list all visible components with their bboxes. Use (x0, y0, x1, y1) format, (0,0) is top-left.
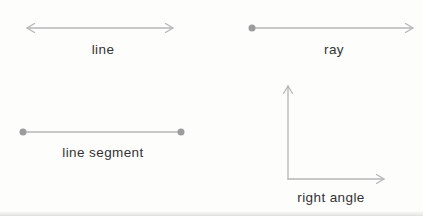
line-segment-label: line segment (62, 145, 143, 160)
figure-line-segment: line segment (20, 129, 185, 161)
geometry-diagram: linerayline segmentright angle (0, 0, 423, 216)
ray-label: ray (324, 42, 344, 57)
right-angle-label: right angle (297, 190, 364, 205)
line-label: line (92, 42, 115, 57)
line-segment-endpoint-dot-right (178, 129, 185, 136)
figure-line: line (27, 24, 173, 58)
figure-ray: ray (249, 24, 414, 58)
ray-endpoint-dot (249, 25, 256, 32)
figure-right-angle: right angle (284, 86, 385, 205)
line-segment-endpoint-dot-left (20, 129, 27, 136)
geometry-diagram-page: linerayline segmentright angle (0, 0, 423, 216)
